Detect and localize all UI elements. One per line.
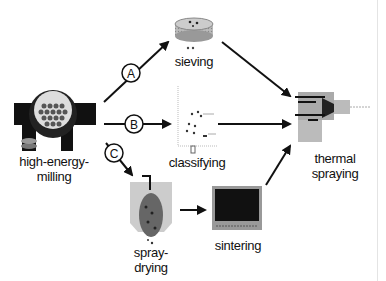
- svg-text:A: A: [127, 67, 135, 81]
- spray-drying-label-line2: drying: [122, 260, 180, 275]
- process-diagram: A B C: [0, 0, 386, 281]
- classifier-icon: [178, 86, 218, 153]
- milling-label-line2: milling: [8, 169, 100, 184]
- ball-mill-icon: [14, 90, 96, 151]
- spray-drying-label: spray- drying: [122, 245, 180, 275]
- svg-text:B: B: [130, 118, 138, 132]
- route-marker-C: C: [105, 144, 123, 162]
- thermal-spraying-label-line1: thermal: [300, 151, 370, 166]
- spray-gun-icon: [295, 92, 370, 142]
- route-marker-B: B: [125, 115, 143, 133]
- thermal-spraying-label: thermal spraying: [300, 151, 370, 181]
- svg-text:C: C: [110, 147, 119, 161]
- spray-dryer-icon: [130, 176, 172, 244]
- classifying-label: classifying: [162, 155, 232, 170]
- spray-drying-label-line1: spray-: [122, 245, 180, 260]
- sieve-icon: [175, 18, 213, 49]
- sintering-label: sintering: [208, 238, 268, 253]
- sieving-label: sieving: [164, 54, 224, 69]
- milling-label-line1: high-energy-: [8, 154, 100, 169]
- milling-label: high-energy- milling: [8, 154, 100, 184]
- furnace-icon: [212, 186, 262, 230]
- route-marker-A: A: [122, 64, 140, 82]
- thermal-spraying-label-line2: spraying: [300, 166, 370, 181]
